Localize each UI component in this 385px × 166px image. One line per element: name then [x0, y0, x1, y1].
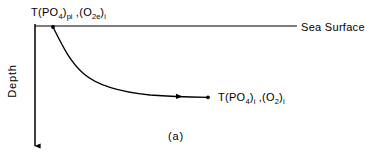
initial-term2-base: (O	[79, 6, 92, 18]
curve-start-point	[51, 25, 55, 29]
initial-condition-label: T(PO4)pi ,(O2e)i	[31, 6, 106, 21]
final-condition-label: T(PO4)i ,(O2)i	[218, 91, 285, 106]
final-term1-base: T(PO	[218, 91, 245, 103]
initial-term2-sub2: i	[104, 12, 106, 21]
depth-axis-label: Depth	[6, 64, 18, 97]
concentration-profile-curve	[53, 27, 208, 97]
curve-end-point	[206, 95, 210, 99]
sea-surface-label: Sea Surface	[301, 21, 365, 33]
initial-term1-base: T(PO	[31, 6, 58, 18]
final-separator: ,	[255, 91, 262, 103]
final-term2-sub2: i	[283, 97, 285, 106]
figure-caption: (a)	[168, 130, 184, 142]
depth-profile-figure: T(PO4)pi ,(O2e)i Sea Surface T(PO4)i ,(O…	[0, 0, 385, 166]
final-term2-base: (O	[262, 91, 275, 103]
